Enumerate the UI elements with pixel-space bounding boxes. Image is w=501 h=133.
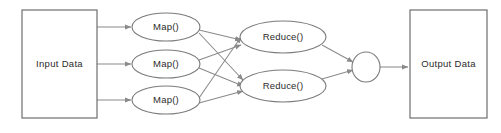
nodes-layer: Input DataMap()Map()Map()Reduce()Reduce(… [22,10,487,118]
edge-map-3-to-reduce-1 [199,37,241,98]
edge-map-1-to-reduce-2 [199,33,243,80]
mapreduce-diagram: Input DataMap()Map()Map()Reduce()Reduce(… [0,0,501,133]
reduce-node-label-2: Reduce() [263,80,304,91]
reduce-node-1: Reduce() [240,21,326,53]
diagram-canvas: Input DataMap()Map()Map()Reduce()Reduce(… [0,0,501,133]
map-node-label-3: Map() [153,94,179,105]
map-node-label-2: Map() [153,58,179,69]
map-node-2: Map() [132,50,200,78]
reduce-node-label-1: Reduce() [263,31,304,42]
merge-node-shape [352,52,380,82]
edge-map-2-to-reduce-1 [199,45,241,60]
map-node-1: Map() [132,13,200,41]
input-data-box: Input Data [22,10,97,118]
input-data-label: Input Data [36,58,83,69]
map-node-3: Map() [132,86,200,114]
edge-map-3-to-reduce-2 [199,91,243,103]
output-data-label: Output Data [421,58,476,69]
reduce-node-2: Reduce() [240,70,326,102]
edge-reduce-2-to-merge [322,70,353,79]
edge-reduce-1-to-merge [322,45,353,62]
edge-map-2-to-reduce-2 [199,68,243,86]
merge-node [352,52,380,82]
output-data-box: Output Data [410,10,487,118]
map-node-label-1: Map() [153,21,179,32]
edge-map-1-to-reduce-1 [199,30,241,40]
